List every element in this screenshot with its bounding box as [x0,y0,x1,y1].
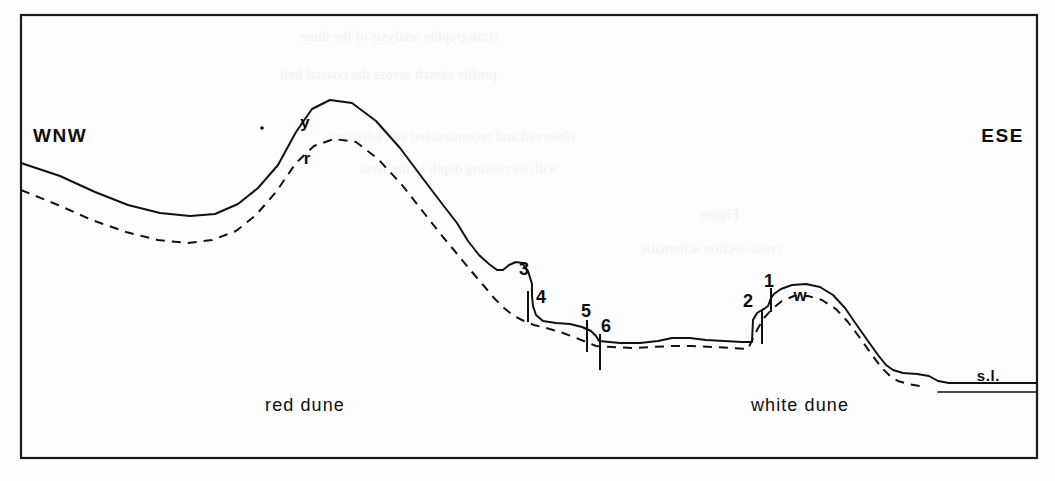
sample-tick-group [528,288,771,370]
profile-series-group [21,100,1037,392]
horizon-label-y: y [300,113,310,132]
buried-profile-dashed [21,139,920,386]
sample-number-5: 5 [581,301,591,321]
sample-number-1: 1 [764,271,774,291]
horizon-code-group: yrw [300,113,807,305]
direction-label-ese: ESE [981,125,1024,146]
sample-number-3: 3 [519,259,529,279]
direction-label-wnw: WNW [33,125,87,146]
dot-y [260,126,264,130]
dune-cross-section-diagram: WNW ESE red dune white dune s.l. yrw 345… [0,0,1055,481]
terrain-label-red-dune: red dune [265,395,345,415]
sample-number-6: 6 [601,316,611,336]
sample-number-group: 345621 [519,259,774,336]
horizon-label-w: w [792,286,807,305]
point-marker-group [260,126,264,130]
sample-number-4: 4 [536,287,546,307]
figure-frame [21,15,1037,458]
horizon-label-r: r [304,149,311,168]
figure-root: stratigraphie analysis of the duneprofil… [0,0,1055,481]
sample-number-2: 2 [743,291,753,311]
terrain-label-white-dune: white dune [750,395,849,415]
sea-level-label: s.l. [977,367,1000,384]
